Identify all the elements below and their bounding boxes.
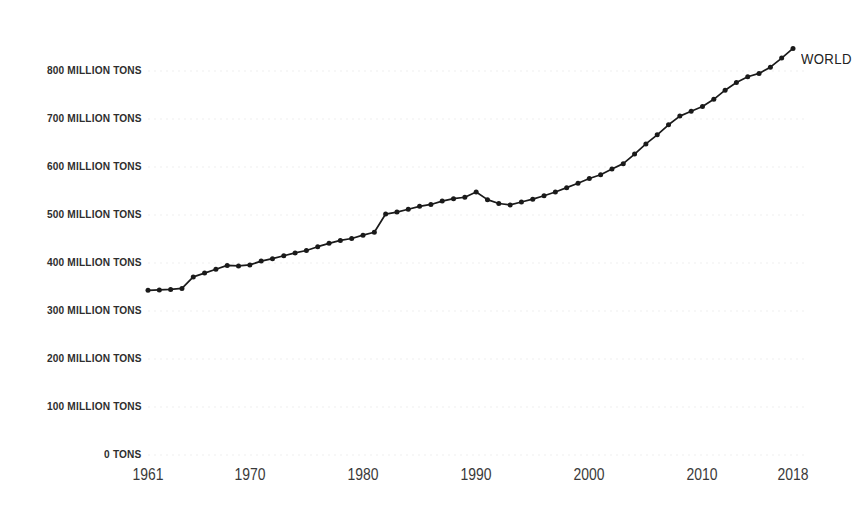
data-point [632, 152, 637, 157]
data-point [598, 172, 603, 177]
data-point [179, 286, 184, 291]
data-point [247, 262, 252, 267]
y-axis-tick-label: 700 MILLION TONS [47, 113, 142, 125]
data-point [689, 109, 694, 114]
y-axis-tick-label: 800 MILLION TONS [47, 65, 142, 77]
data-point [157, 287, 162, 292]
data-point [530, 197, 535, 202]
data-point [168, 287, 173, 292]
data-point [225, 263, 230, 268]
gridlines-group [148, 71, 805, 455]
series-label-world: WORLD [801, 51, 852, 67]
data-point [768, 65, 773, 70]
data-point [383, 212, 388, 217]
data-point [213, 267, 218, 272]
data-point [508, 202, 513, 207]
data-point [519, 200, 524, 205]
data-point [349, 236, 354, 241]
y-axis-tick-label: 400 MILLION TONS [47, 257, 142, 269]
data-point [304, 248, 309, 253]
data-point [293, 250, 298, 255]
data-point-markers [146, 46, 796, 293]
data-point [564, 185, 569, 190]
data-point [236, 263, 241, 268]
data-point [621, 161, 626, 166]
data-point [417, 204, 422, 209]
data-point [338, 238, 343, 243]
data-point [609, 166, 614, 171]
data-point [451, 196, 456, 201]
data-point [485, 197, 490, 202]
y-axis-tick-label: 300 MILLION TONS [47, 305, 142, 317]
data-point [394, 210, 399, 215]
data-point [745, 74, 750, 79]
data-point [496, 201, 501, 206]
data-point [315, 244, 320, 249]
x-axis-tick-label: 2018 [760, 466, 826, 483]
data-point [270, 256, 275, 261]
x-axis-tick-label: 1980 [330, 466, 396, 483]
x-axis-tick-label: 2000 [557, 466, 623, 483]
data-point [372, 230, 377, 235]
y-axis-tick-label: 600 MILLION TONS [47, 161, 142, 173]
data-point [281, 253, 286, 258]
y-axis-tick-label: 100 MILLION TONS [47, 401, 142, 413]
data-point [734, 80, 739, 85]
x-axis-tick-label: 1970 [217, 466, 283, 483]
data-point [146, 288, 151, 293]
x-axis-tick-label: 1990 [443, 466, 509, 483]
y-axis-tick-label: 500 MILLION TONS [47, 209, 142, 221]
data-point [406, 207, 411, 212]
data-point [576, 181, 581, 186]
data-point [259, 259, 264, 264]
data-point [700, 104, 705, 109]
data-point [553, 189, 558, 194]
data-point [643, 141, 648, 146]
data-point [202, 271, 207, 276]
data-point [474, 189, 479, 194]
data-point [723, 88, 728, 93]
data-point [655, 132, 660, 137]
data-point [757, 71, 762, 76]
data-point [440, 199, 445, 204]
data-point [542, 193, 547, 198]
data-point [327, 241, 332, 246]
data-point [428, 202, 433, 207]
data-point [361, 233, 366, 238]
data-point [587, 176, 592, 181]
data-point [462, 195, 467, 200]
data-point [711, 97, 716, 102]
data-point [791, 46, 796, 51]
x-axis-tick-label: 2010 [670, 466, 736, 483]
data-point [779, 56, 784, 61]
y-axis-tick-label: 200 MILLION TONS [47, 353, 142, 365]
x-axis-tick-label: 1961 [115, 466, 181, 483]
data-point [677, 114, 682, 119]
data-point [666, 122, 671, 127]
y-axis-tick-label: 0 TONS [105, 449, 142, 461]
series-line-world [148, 48, 793, 290]
data-point [191, 274, 196, 279]
